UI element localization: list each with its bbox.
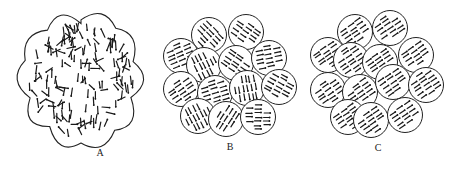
domain-arrow-icon: [36, 75, 37, 81]
panel-b: [164, 15, 297, 137]
grain: [373, 11, 408, 46]
domain-arrow-icon: [74, 26, 75, 34]
grain: [354, 103, 389, 138]
domain-arrow-icon: [128, 85, 129, 93]
domain-arrow-icon: [88, 90, 89, 98]
domain-arrow-icon: [49, 106, 56, 107]
domain-arrow-icon: [110, 45, 111, 52]
domain-arrow-icon: [119, 69, 120, 76]
domain-arrow-icon: [69, 115, 70, 122]
panel-a-label: A: [96, 147, 104, 158]
domain-arrow-icon: [94, 29, 95, 35]
domain-arrow-icon: [35, 63, 42, 64]
grain: [388, 98, 423, 133]
grain: [262, 70, 297, 105]
domain-arrow-icon: [102, 107, 110, 108]
domain-arrow-icon: [114, 35, 115, 42]
domain-arrow-icon: [116, 41, 117, 50]
panel-c: [311, 11, 444, 138]
grain: [241, 100, 276, 135]
panel-c-label: C: [375, 142, 382, 153]
domain-arrow-icon: [54, 110, 55, 118]
domain-arrow-icon: [93, 97, 94, 105]
grain: [409, 68, 444, 103]
panel-a: [17, 13, 144, 147]
panel-b-label: B: [227, 141, 234, 152]
domain-structure-figure: A B C: [0, 0, 458, 171]
grain: [192, 18, 227, 53]
grain: [376, 65, 411, 100]
domain-arrow-icon: [87, 24, 88, 30]
domain-arrow-icon: [86, 105, 87, 112]
grain: [209, 102, 244, 137]
domain-arrow-icon: [78, 74, 79, 82]
